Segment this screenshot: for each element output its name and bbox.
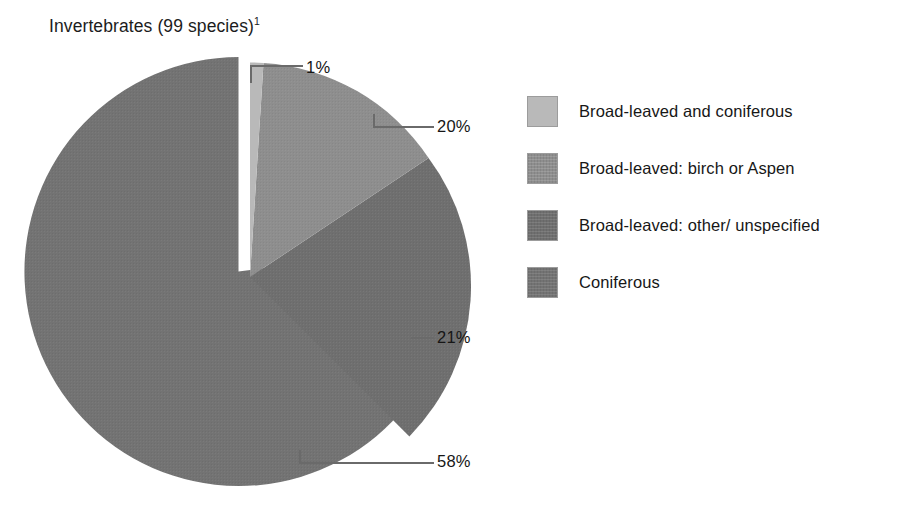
slice-label-58: 58%: [437, 452, 471, 471]
legend-swatch-icon: [527, 267, 558, 298]
legend-item-label: Broad-leaved: other/ unspecified: [579, 216, 820, 235]
chart-legend: Broad-leaved and coniferous Broad-leaved…: [527, 96, 897, 324]
chart-page: Invertebrates (99 species)1: [0, 0, 905, 519]
slice-label-1: 1%: [306, 58, 330, 77]
legend-item-label: Coniferous: [579, 273, 660, 292]
legend-swatch-icon: [527, 210, 558, 241]
legend-item-broad-leaved-birch-or-aspen: Broad-leaved: birch or Aspen: [527, 153, 897, 184]
pie-chart: 1% 20% 21% 58%: [0, 0, 560, 519]
slice-label-20: 20%: [437, 117, 471, 136]
slice-label-21: 21%: [437, 328, 471, 347]
legend-item-label: Broad-leaved: birch or Aspen: [579, 159, 795, 178]
legend-item-broad-leaved-other-unspecified: Broad-leaved: other/ unspecified: [527, 210, 897, 241]
legend-item-coniferous: Coniferous: [527, 267, 897, 298]
pie-chart-svg: [0, 0, 560, 519]
legend-swatch-icon: [527, 96, 558, 127]
legend-item-broad-leaved-and-coniferous: Broad-leaved and coniferous: [527, 96, 897, 127]
legend-item-label: Broad-leaved and coniferous: [579, 102, 793, 121]
legend-swatch-icon: [527, 153, 558, 184]
